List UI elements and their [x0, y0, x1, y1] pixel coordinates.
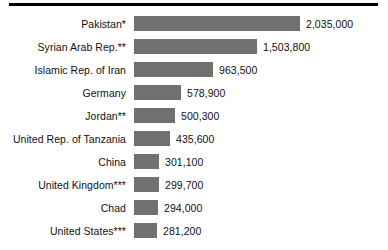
bar: [134, 177, 159, 192]
bar-and-value: 281,200: [134, 223, 388, 238]
bar-category-label: Jordan**: [0, 110, 134, 122]
bar: [134, 39, 257, 54]
chart-plot-area: Pakistan*2,035,000Syrian Arab Rep.**1,50…: [0, 12, 388, 242]
bar-and-value: 578,900: [134, 85, 388, 100]
bar-value-label: 578,900: [181, 87, 225, 99]
bar-and-value: 500,300: [134, 108, 388, 123]
bar-category-label: United States***: [0, 225, 134, 237]
bar-row: United Rep. of Tanzania435,600: [0, 127, 388, 150]
bar-value-label: 294,000: [158, 202, 202, 214]
bar-row: United Kingdom***299,700: [0, 173, 388, 196]
bar-value-label: 281,200: [157, 225, 201, 237]
bar-row: United States***281,200: [0, 219, 388, 242]
bar-and-value: 301,100: [134, 154, 388, 169]
bar-category-label: United Kingdom***: [0, 179, 134, 191]
bar-category-label: United Rep. of Tanzania: [0, 133, 134, 145]
bar-row: China301,100: [0, 150, 388, 173]
bar-row: Jordan**500,300: [0, 104, 388, 127]
bar-value-label: 963,500: [213, 64, 257, 76]
bar-row: Pakistan*2,035,000: [0, 12, 388, 35]
bar-and-value: 963,500: [134, 62, 388, 77]
bar-category-label: Syrian Arab Rep.**: [0, 41, 134, 53]
bar-row: Syrian Arab Rep.**1,503,800: [0, 35, 388, 58]
bar-and-value: 294,000: [134, 200, 388, 215]
bar-and-value: 299,700: [134, 177, 388, 192]
bar-value-label: 299,700: [159, 179, 203, 191]
bar: [134, 131, 170, 146]
bar-category-label: China: [0, 156, 134, 168]
bar-row: Germany578,900: [0, 81, 388, 104]
bar: [134, 108, 175, 123]
bar-value-label: 1,503,800: [257, 41, 310, 53]
bar: [134, 200, 158, 215]
bar-and-value: 435,600: [134, 131, 388, 146]
bar: [134, 62, 213, 77]
bar: [134, 85, 181, 100]
bar-value-label: 301,100: [159, 156, 203, 168]
bar-category-label: Chad: [0, 202, 134, 214]
bar-row: Chad294,000: [0, 196, 388, 219]
bar-and-value: 2,035,000: [134, 16, 388, 31]
chart-top-rule: [9, 3, 378, 6]
bar-category-label: Germany: [0, 87, 134, 99]
bar: [134, 154, 159, 169]
bar-value-label: 500,300: [175, 110, 219, 122]
bar-value-label: 2,035,000: [300, 18, 353, 30]
horizontal-bar-chart: Pakistan*2,035,000Syrian Arab Rep.**1,50…: [0, 0, 388, 250]
bar-category-label: Islamic Rep. of Iran: [0, 64, 134, 76]
bar-value-label: 435,600: [170, 133, 214, 145]
bar: [134, 16, 300, 31]
bar-category-label: Pakistan*: [0, 18, 134, 30]
bar-row: Islamic Rep. of Iran963,500: [0, 58, 388, 81]
bar-and-value: 1,503,800: [134, 39, 388, 54]
bar: [134, 223, 157, 238]
